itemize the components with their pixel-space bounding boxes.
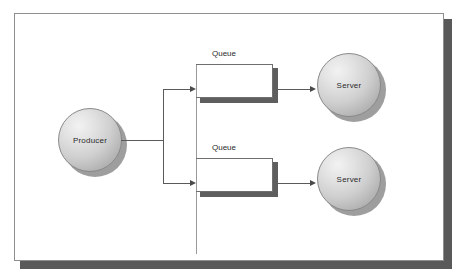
lower-queue-top-wall xyxy=(196,158,273,159)
lower-queue-divider-1 xyxy=(196,158,197,190)
upper-server-node[interactable]: Server xyxy=(317,53,381,117)
upper-queue-divider-3 xyxy=(196,128,197,160)
upper-queue-to-server-arrowhead xyxy=(310,86,316,92)
lower-queue[interactable] xyxy=(196,158,278,197)
upper-queue-top-wall xyxy=(196,64,273,65)
lower-server-node[interactable]: Server xyxy=(317,147,381,211)
upper-queue-divider-1 xyxy=(196,64,197,96)
lower-server-label: Server xyxy=(337,175,362,184)
upper-queue-shadow-bottom xyxy=(200,98,278,103)
producer-stem-line xyxy=(121,140,164,141)
lower-queue-bottom-wall xyxy=(196,191,273,192)
lower-queue-to-server-arrowhead xyxy=(310,180,316,186)
lower-queue-divider-2 xyxy=(196,190,197,222)
lower-branch-line xyxy=(163,183,191,184)
producer-node[interactable]: Producer xyxy=(58,108,122,172)
producer-label: Producer xyxy=(73,136,107,145)
lower-queue-label: Queue xyxy=(212,143,236,152)
lower-queue-to-server-line xyxy=(278,183,311,184)
upper-queue[interactable] xyxy=(196,64,278,103)
lower-queue-shadow-bottom xyxy=(200,192,278,197)
split-trunk-line xyxy=(163,89,164,184)
upper-queue-divider-2 xyxy=(196,96,197,128)
upper-queue-label: Queue xyxy=(212,49,236,58)
lower-queue-divider-3 xyxy=(196,222,197,254)
upper-queue-right-wall xyxy=(272,64,273,98)
upper-queue-to-server-line xyxy=(278,89,311,90)
upper-queue-bottom-wall xyxy=(196,97,273,98)
lower-queue-right-wall xyxy=(272,158,273,192)
diagram-canvas: Producer Queue Server Queue xyxy=(0,0,463,276)
upper-branch-line xyxy=(163,89,191,90)
upper-server-label: Server xyxy=(337,81,362,90)
